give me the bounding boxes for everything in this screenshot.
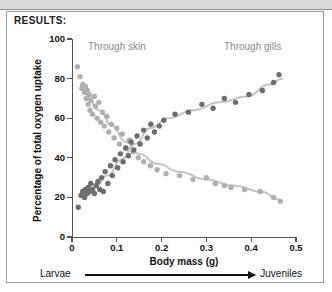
- developmental-stage-axis: Larvae Juveniles: [40, 268, 302, 282]
- stage-label-juveniles: Juveniles: [260, 268, 302, 279]
- scan-top-band: [0, 0, 332, 10]
- content-frame: [6, 11, 324, 283]
- stage-label-larvae: Larvae: [40, 268, 71, 279]
- stage-arrow-icon: [85, 274, 255, 276]
- results-section-label: RESULTS:: [14, 15, 66, 26]
- page-canvas: RESULTS: 020406080100 00.10.20.30.40.5 P…: [0, 0, 332, 292]
